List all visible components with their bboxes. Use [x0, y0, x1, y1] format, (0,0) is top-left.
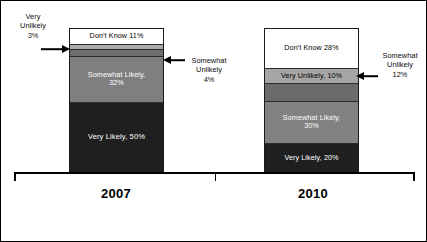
segment-label-2010-very-unlikely: Very Unlikely, 10% — [279, 72, 344, 80]
stacked-bar-2010: Don't Know 28% Very Unlikely, 10% Somewh… — [264, 28, 359, 173]
segment-2010-very-unlikely: Very Unlikely, 10% — [265, 69, 358, 84]
segment-label-2010-dont-know: Don't Know 28% — [282, 44, 340, 52]
segment-2010-very-likely: Very Likely, 20% — [265, 144, 358, 172]
segment-label-2007-somewhat-likely: Somewhat Likely, 32% — [86, 71, 147, 88]
segment-label-2007-dont-know: Don't Know 11% — [88, 32, 146, 40]
chart-figure: Don't Know 11% Very Unlikely, 3% Somewha… — [0, 0, 427, 242]
axis-tick-end — [413, 172, 415, 181]
axis-tick-middle — [215, 172, 217, 181]
category-label-2010: 2010 — [213, 186, 413, 201]
segment-label-2010-somewhat-likely: Somewhat Likely, 30% — [281, 114, 342, 131]
segment-2010-somewhat-unlikely: Somewhat Unlikely, 12% — [265, 84, 358, 102]
segment-2007-somewhat-likely: Somewhat Likely, 32% — [70, 57, 163, 102]
segment-2010-somewhat-likely: Somewhat Likely, 30% — [265, 102, 358, 145]
segment-2007-very-likely: Very Likely, 50% — [70, 103, 163, 173]
axis-tick-start — [14, 172, 16, 181]
annotation-very-unlikely-2007: Very Unlikely 3% — [7, 12, 59, 40]
category-label-2007: 2007 — [16, 186, 216, 201]
segment-label-2007-very-likely: Very Likely, 50% — [86, 133, 147, 142]
segment-2007-dont-know: Don't Know 11% — [70, 29, 163, 45]
annotation-somewhat-unlikely-2010: Somewhat Unlikely 12% — [374, 51, 426, 79]
annotation-somewhat-unlikely-2007: Somewhat Unlikely 4% — [182, 56, 236, 84]
plot-area: Don't Know 11% Very Unlikely, 3% Somewha… — [1, 1, 427, 242]
stacked-bar-2007: Don't Know 11% Very Unlikely, 3% Somewha… — [69, 28, 164, 173]
category-axis — [14, 172, 415, 182]
segment-label-2010-very-likely: Very Likely, 20% — [282, 154, 340, 162]
segment-2010-dont-know: Don't Know 28% — [265, 29, 358, 69]
